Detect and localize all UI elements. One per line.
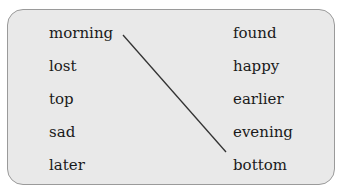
connection-line-morning-evening [0,0,344,192]
